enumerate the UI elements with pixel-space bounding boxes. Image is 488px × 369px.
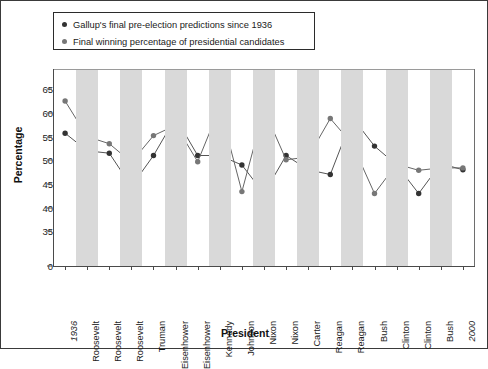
x-tick-mark — [242, 266, 243, 270]
data-point — [372, 143, 377, 148]
x-tick-mark — [419, 266, 420, 270]
x-tick-mark — [109, 266, 110, 270]
y-axis-line — [53, 69, 54, 267]
legend-item-gallup: Gallup's final pre-election predictions … — [60, 16, 308, 33]
background-stripe — [430, 69, 452, 266]
x-tick-mark — [352, 266, 353, 270]
background-stripe — [297, 69, 319, 266]
x-tick-mark — [176, 266, 177, 270]
background-stripe — [76, 69, 98, 266]
data-point — [283, 157, 288, 162]
legend-label-actual: Final winning percentage of presidential… — [73, 37, 284, 47]
data-point — [239, 162, 244, 167]
y-tick-mark — [47, 89, 52, 90]
y-tick-mark — [47, 160, 52, 161]
data-point — [151, 153, 156, 158]
background-stripe — [120, 69, 142, 266]
y-tick-mark — [47, 136, 52, 137]
x-tick-mark — [330, 266, 331, 270]
background-stripe — [209, 69, 231, 266]
x-tick-mark — [308, 266, 309, 270]
x-tick-mark — [220, 266, 221, 270]
chart-legend: Gallup's final pre-election predictions … — [53, 12, 315, 50]
data-point — [62, 131, 67, 136]
data-point — [416, 168, 421, 173]
background-stripe — [253, 69, 275, 266]
y-tick-mark — [47, 112, 52, 113]
y-tick-mark — [47, 231, 52, 232]
x-tick-mark — [198, 266, 199, 270]
plot-top-border — [53, 69, 475, 70]
x-tick-mark — [286, 266, 287, 270]
data-point — [151, 133, 156, 138]
data-point — [239, 189, 244, 194]
data-point — [107, 141, 112, 146]
y-tick-mark — [47, 207, 52, 208]
x-tick-mark — [264, 266, 265, 270]
background-stripe — [165, 69, 187, 266]
x-tick-mark — [131, 266, 132, 270]
x-tick-mark — [463, 266, 464, 270]
y-tick-mark — [47, 184, 52, 185]
x-tick-mark — [153, 266, 154, 270]
x-tick-mark — [87, 266, 88, 270]
plot-right-border — [474, 69, 475, 267]
data-point — [328, 116, 333, 121]
x-tick-mark — [441, 266, 442, 270]
legend-marker-actual — [62, 39, 67, 44]
x-tick-mark — [397, 266, 398, 270]
x-axis-title: President — [1, 327, 488, 339]
x-tick-mark — [375, 266, 376, 270]
data-point — [328, 172, 333, 177]
x-tick-mark — [65, 266, 66, 270]
data-point — [416, 191, 421, 196]
background-stripe — [386, 69, 408, 266]
plot-area — [54, 69, 474, 266]
data-point — [107, 151, 112, 156]
data-point — [372, 191, 377, 196]
background-stripe — [341, 69, 363, 266]
legend-label-gallup: Gallup's final pre-election predictions … — [73, 20, 272, 30]
data-point — [460, 165, 465, 170]
data-point — [195, 159, 200, 164]
legend-marker-gallup — [62, 22, 67, 27]
legend-item-actual: Final winning percentage of presidential… — [60, 33, 308, 50]
data-point — [62, 98, 67, 103]
